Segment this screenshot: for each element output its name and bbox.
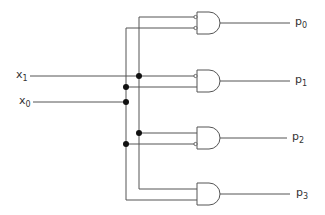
input-label-x0: x0 <box>19 95 31 109</box>
inverter-bubble <box>194 15 197 18</box>
and-gate-p2 <box>194 127 220 149</box>
junction-x0-g2 <box>123 141 129 147</box>
and-gate-p1 <box>194 70 220 92</box>
output-label-p1: p1 <box>295 74 307 88</box>
junction-x1-g1 <box>136 73 142 79</box>
inverter-bubble <box>194 74 197 77</box>
inverter-bubble <box>194 26 197 29</box>
junction-x1-g2 <box>136 130 142 136</box>
and-gate-p3 <box>197 183 220 205</box>
inverter-bubble <box>194 142 197 145</box>
output-label-p0: p0 <box>295 16 307 30</box>
decoder-circuit <box>0 0 325 215</box>
junction-x0-input <box>123 99 129 105</box>
and-gate-p0 <box>194 12 220 34</box>
input-label-x1: x1 <box>16 69 28 83</box>
output-label-p3: p3 <box>296 187 308 201</box>
output-label-p2: p2 <box>292 131 304 145</box>
junction-x0-g1 <box>123 84 129 90</box>
